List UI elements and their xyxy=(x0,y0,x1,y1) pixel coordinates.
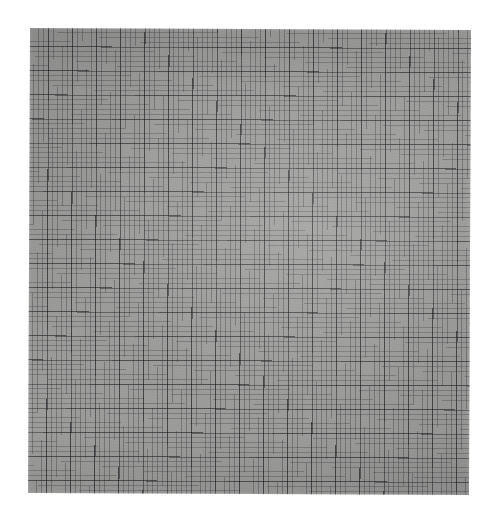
image-canvas xyxy=(0,0,499,521)
graph-paper-sheet xyxy=(28,28,471,495)
major-grid-lines xyxy=(28,28,471,495)
